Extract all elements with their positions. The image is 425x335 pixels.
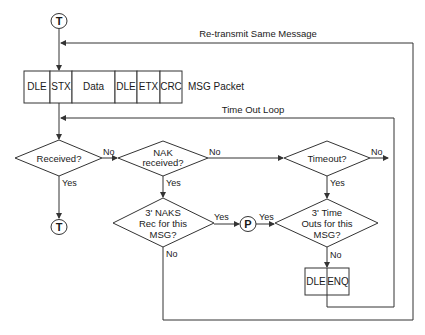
decision-three-naks: 3' NAKS Rec for this MSG? [113,198,214,247]
enq-packet: DLE ENQ [305,268,349,295]
connector-p: P [240,217,256,232]
decision-label: Rec for this [139,218,187,229]
decision-timeout: Timeout? [284,141,370,176]
decision-label: 3' Time [312,207,342,218]
edge-label-no: No [209,147,221,157]
edge-label-no: No [371,147,383,157]
flowchart-canvas: T Re-transmit Same Message DLE STX Data … [0,0,425,335]
decision-label: Timeout? [307,153,346,164]
decision-label: MSG? [314,229,341,240]
edge-label-no: No [103,147,115,157]
decision-three-timeouts: 3' Time Outs for this MSG? [275,199,378,247]
edge-label-no: No [166,249,178,259]
retransmit-label: Re-transmit Same Message [199,28,317,39]
enq-field-enq: ENQ [327,276,349,287]
packet-field-dle2: DLE [116,81,136,92]
decision-label: 3' NAKS [145,207,181,218]
connector-label: T [56,15,63,27]
edge-label-no: No [330,250,342,260]
connector-t-top: T [51,14,67,29]
edge-label-yes: Yes [62,178,77,188]
packet-field-etx: ETX [139,81,159,92]
enq-field-dle: DLE [306,276,326,287]
packet-field-dle: DLE [27,81,47,92]
time-out-loop-label: Time Out Loop [222,104,284,115]
packet-field-stx: STX [51,81,71,92]
decision-label: received? [142,157,183,168]
decision-label: Received? [37,153,82,164]
connector-label: T [56,221,63,233]
decision-received: Received? [15,140,102,176]
packet-field-data: Data [83,81,105,92]
flowchart-svg: T Re-transmit Same Message DLE STX Data … [0,0,425,335]
edge-label-yes: Yes [166,178,181,188]
decision-label: Outs for this [301,218,352,229]
msg-packet: DLE STX Data DLE ETX CRC MSG Packet [24,71,244,103]
packet-field-crc: CRC [160,81,182,92]
connector-t-bottom: T [51,220,67,235]
edge-label-yes: Yes [214,212,229,222]
msg-packet-label: MSG Packet [188,81,244,92]
edge-label-yes: Yes [330,178,345,188]
decision-nak-received: NAK received? [118,141,208,176]
edge-label-yes: Yes [259,212,274,222]
connector-label: P [244,218,251,230]
decision-label: MSG? [150,229,177,240]
